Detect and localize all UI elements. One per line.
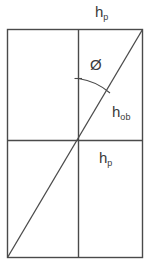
label-hp-bottom-subscript: p — [107, 158, 112, 168]
label-hob: hob — [112, 104, 131, 122]
label-hob-subscript: ob — [120, 112, 130, 122]
diagram-vector-layer — [0, 0, 149, 263]
label-hp-top-subscript: p — [103, 12, 108, 22]
label-angle-phi: Ø — [90, 57, 102, 72]
label-hp-bottom: hp — [99, 150, 113, 168]
diagram-canvas: hp hob hp Ø — [0, 0, 149, 263]
diagonal-line-of-sight — [8, 30, 143, 258]
label-hp-top: hp — [95, 4, 109, 22]
angle-arc — [79, 79, 111, 94]
